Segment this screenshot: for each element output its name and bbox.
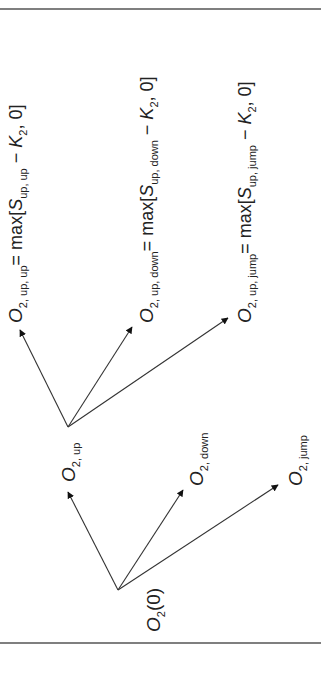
node-down-label: O2, down — [186, 433, 210, 486]
node-root-label: O2(0) — [143, 588, 167, 632]
node-jump-label: O2, jump — [285, 435, 309, 486]
edge-up-up — [20, 330, 68, 427]
edge-root-jump — [118, 485, 278, 590]
edge-root-down — [118, 490, 183, 590]
node-up-label: O2, up — [58, 443, 82, 482]
edge-root-up — [68, 492, 118, 590]
edge-up-jump — [68, 318, 228, 427]
node-up-up-label: O2, up, up= max[Sup, up − K2, 0] — [5, 105, 29, 323]
node-up-jump-label: O2, up, jump= max[Sup, jump − K2, 0] — [234, 81, 258, 323]
edge-up-down — [68, 327, 132, 427]
node-up-down-label: O2, up, down= max[Sup, down − K2, 0] — [136, 76, 160, 323]
option-tree-diagram: O2(0) O2, up O2, down O2, jump O2, up, u… — [0, 0, 321, 690]
